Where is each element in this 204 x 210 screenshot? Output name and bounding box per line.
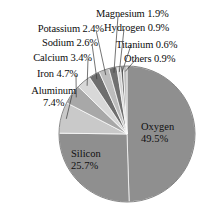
slice-label-silicon-name: Silicon [71, 148, 101, 160]
slice-label-potassium: Potassium 2.4% [38, 23, 104, 35]
slice-label-titanium: Titanium 0.6% [116, 39, 177, 51]
slice-label-aluminum-value: 7.4% [31, 97, 76, 109]
slice-label-silicon: Silicon 25.7% [71, 148, 101, 172]
pie-slices-group [59, 66, 195, 202]
slice-label-others: Others 0.9% [124, 53, 175, 65]
slice-label-sodium: Sodium 2.6% [42, 37, 98, 49]
slice-label-calcium: Calcium 3.4% [33, 52, 92, 64]
slice-label-hydrogen: Hydrogen 0.9% [104, 22, 169, 34]
pie-chart-figure: Magnesium 1.9% Hydrogen 0.9% Titanium 0.… [0, 0, 204, 210]
slice-label-silicon-value: 25.7% [71, 160, 101, 172]
slice-label-aluminum-name: Aluminum [31, 85, 76, 97]
slice-label-aluminum: Aluminum 7.4% [31, 85, 76, 108]
slice-label-oxygen: Oxygen 49.5% [141, 121, 174, 145]
slice-label-oxygen-value: 49.5% [141, 133, 174, 145]
slice-label-oxygen-name: Oxygen [141, 121, 174, 133]
slice-label-iron: Iron 4.7% [37, 68, 78, 80]
slice-label-magnesium: Magnesium 1.9% [96, 8, 169, 20]
